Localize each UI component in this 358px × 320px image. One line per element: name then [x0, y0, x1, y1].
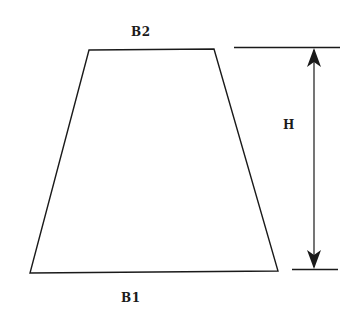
label-b1: B1: [121, 291, 141, 305]
trapezoid-shape: [30, 49, 278, 273]
label-b2: B2: [131, 25, 151, 39]
label-h: H: [283, 118, 295, 132]
trapezoid-diagram: [0, 0, 358, 320]
